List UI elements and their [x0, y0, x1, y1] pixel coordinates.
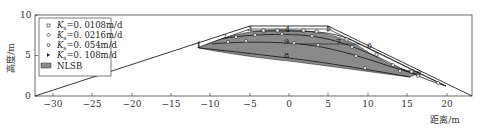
- y-tick-5: 5: [25, 50, 31, 60]
- legend-nlsb-swatch: [41, 63, 51, 68]
- y-tick-10: 10: [20, 10, 32, 20]
- legend-item-1: Ks=0. 0108m/d: [56, 20, 123, 31]
- x-tick: −25: [83, 99, 102, 109]
- x-tick: −15: [162, 99, 181, 109]
- y-tick-0: 0: [25, 91, 31, 101]
- legend-item-2: Ks=0. 0216m/d: [56, 30, 123, 41]
- x-tick: 15: [401, 99, 413, 109]
- curve-label-7: 7: [336, 37, 341, 46]
- x-axis-label: 距离/m: [430, 114, 460, 125]
- x-tick: −30: [44, 99, 63, 109]
- curve-label-2: 2: [222, 32, 227, 41]
- legend-square-icon: [47, 24, 50, 27]
- seepage-chart: 1 2 3 4 5 6 7 8 9 0 5 10 高度/m −30 −25 −2…: [0, 0, 483, 130]
- curve-label-6: 6: [367, 41, 372, 50]
- curve-label-4: 4: [285, 25, 290, 34]
- y-axis-label: 高度/m: [5, 43, 16, 73]
- curve-label-1: 1: [196, 41, 201, 50]
- x-tick: 5: [325, 99, 331, 109]
- curve-label-8: 8: [284, 51, 289, 60]
- x-tick: −10: [201, 99, 220, 109]
- x-tick: 0: [286, 99, 292, 109]
- x-tick: −20: [123, 99, 142, 109]
- curve-label-5: 5: [326, 24, 331, 33]
- legend-item-nlsb: NLSB: [57, 61, 82, 71]
- x-tick: 10: [362, 99, 374, 109]
- legend-circle-icon: [47, 44, 50, 47]
- x-tick: −5: [243, 99, 257, 109]
- x-tick: 20: [441, 99, 453, 109]
- legend: Ks=0. 0108m/d Ks=0. 0216m/d Ks=0. 054m/d…: [39, 18, 123, 76]
- curve-label-3: 3: [247, 24, 252, 33]
- curve-label-9: 9: [284, 37, 289, 46]
